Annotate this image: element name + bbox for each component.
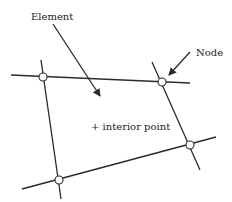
- interior-point-label: + interior point: [91, 121, 170, 132]
- element-label: Element: [31, 11, 73, 22]
- node-top-left: [39, 73, 47, 81]
- node-label: Node: [196, 47, 223, 58]
- node-arrow: [169, 52, 190, 75]
- node-bottom-right: [186, 141, 194, 149]
- element-arrow: [53, 24, 100, 96]
- node-top-right: [158, 78, 166, 86]
- node-bottom-left: [55, 176, 63, 184]
- right-edge-line: [152, 62, 200, 170]
- finite-element-diagram: Element Node + interior point: [0, 0, 232, 202]
